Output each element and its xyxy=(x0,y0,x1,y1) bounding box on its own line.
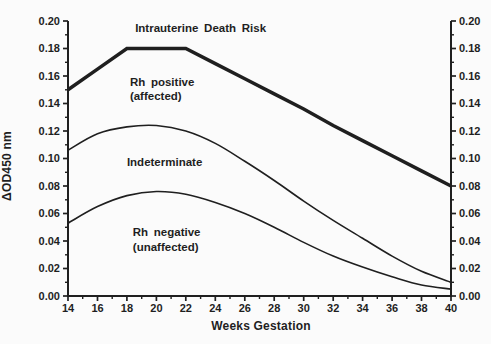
label-rh-positive-line-1: Rh positive xyxy=(130,76,194,88)
label-intrauterine-death-risk-line-1: Intrauterine Death Risk xyxy=(135,22,266,34)
axes-layer: 0.000.000.020.020.040.040.060.060.080.08… xyxy=(39,15,482,314)
y-tick-label-left: 0.14 xyxy=(39,97,61,109)
plot-svg: 0.000.000.020.020.040.040.060.060.080.08… xyxy=(0,0,491,344)
liley-chart-figure: 0.000.000.020.020.040.040.060.060.080.08… xyxy=(0,0,491,344)
y-tick-label-right: 0.02 xyxy=(459,262,480,274)
x-tick-label: 34 xyxy=(356,302,369,314)
x-tick-label: 24 xyxy=(209,302,222,314)
y-axis-title: ΔOD450 nm xyxy=(0,131,14,201)
x-tick-label: 38 xyxy=(415,302,427,314)
y-tick-label-left: 0.16 xyxy=(39,70,60,82)
y-tick-label-right: 0.20 xyxy=(459,15,480,27)
label-rh-negative-line-2: (unaffected) xyxy=(133,241,199,253)
y-tick-label-left: 0.02 xyxy=(39,262,60,274)
x-tick-label: 16 xyxy=(91,302,103,314)
x-tick-label: 40 xyxy=(445,302,457,314)
y-tick-label-left: 0.10 xyxy=(39,152,60,164)
y-tick-label-right: 0.12 xyxy=(459,125,480,137)
y-tick-label-left: 0.12 xyxy=(39,125,60,137)
label-indeterminate: Indeterminate xyxy=(127,156,202,168)
label-rh-positive-line-2: (affected) xyxy=(130,90,182,102)
y-tick-label-right: 0.14 xyxy=(459,97,481,109)
label-intrauterine-death-risk: Intrauterine Death Risk xyxy=(135,22,266,34)
x-tick-label: 30 xyxy=(298,302,310,314)
label-rh-negative: Rh negative(unaffected) xyxy=(133,226,201,253)
x-tick-label: 36 xyxy=(386,302,398,314)
x-tick-label: 22 xyxy=(180,302,192,314)
x-tick-label: 20 xyxy=(150,302,162,314)
risk-line xyxy=(68,49,451,187)
y-tick-label-right: 0.08 xyxy=(459,180,480,192)
y-tick-label-right: 0.16 xyxy=(459,70,480,82)
label-indeterminate-line-1: Indeterminate xyxy=(127,156,202,168)
x-tick-label: 14 xyxy=(62,302,75,314)
label-rh-negative-line-1: Rh negative xyxy=(133,226,201,238)
y-tick-label-right: 0.06 xyxy=(459,207,480,219)
y-tick-label-left: 0.08 xyxy=(39,180,60,192)
y-tick-label-left: 0.04 xyxy=(39,235,61,247)
y-tick-label-right: 0.18 xyxy=(459,42,480,54)
x-tick-label: 28 xyxy=(268,302,280,314)
y-tick-label-left: 0.18 xyxy=(39,42,60,54)
y-tick-label-left: 0.00 xyxy=(39,290,60,302)
x-axis-title: Weeks Gestation xyxy=(211,319,310,333)
x-tick-label: 32 xyxy=(327,302,339,314)
y-tick-label-right: 0.10 xyxy=(459,152,480,164)
x-tick-label: 18 xyxy=(121,302,133,314)
y-tick-label-left: 0.20 xyxy=(39,15,60,27)
series-layer xyxy=(68,49,451,290)
rh-negative-curve xyxy=(68,191,451,289)
indeterminate-curve xyxy=(68,125,451,282)
x-tick-label: 26 xyxy=(239,302,251,314)
y-tick-label-right: 0.04 xyxy=(459,235,481,247)
annotations-layer: Intrauterine Death RiskRh positive(affec… xyxy=(127,22,267,253)
label-rh-positive: Rh positive(affected) xyxy=(130,76,194,103)
y-tick-label-left: 0.06 xyxy=(39,207,60,219)
y-tick-label-right: 0.00 xyxy=(459,290,480,302)
